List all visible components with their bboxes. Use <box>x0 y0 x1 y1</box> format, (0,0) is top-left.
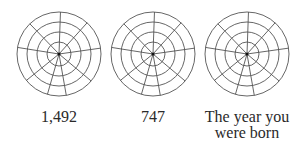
label-birth-year: The year you were born <box>195 109 299 141</box>
label-birth-year-line1: The year you <box>195 109 299 125</box>
label-1492: 1,492 <box>9 109 109 125</box>
radial-grid-2 <box>103 0 203 100</box>
label-birth-year-line2: were born <box>195 125 299 141</box>
radial-grid-1 <box>9 0 109 100</box>
label-747: 747 <box>103 109 203 125</box>
radial-grid-3 <box>197 0 297 100</box>
